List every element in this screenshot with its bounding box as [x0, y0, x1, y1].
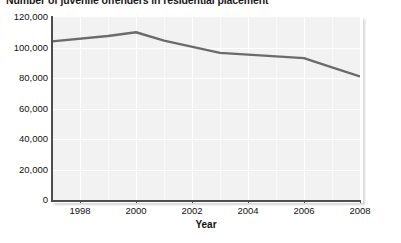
- y-axis-tick-label: 100,000: [2, 43, 48, 53]
- y-axis-tick-label: 20,000: [2, 165, 48, 175]
- y-axis-tick-label: 40,000: [2, 134, 48, 144]
- x-axis-tick-mark: [304, 200, 305, 203]
- y-axis-tick-label: 80,000: [2, 73, 48, 83]
- y-axis-tick-label: 60,000: [2, 104, 48, 114]
- x-axis-tick-mark: [360, 200, 361, 203]
- chart-figure: Number of juvenile offenders in resident…: [0, 0, 401, 243]
- x-axis-tick-label: 2008: [340, 205, 380, 216]
- x-axis-tick-mark: [192, 200, 193, 203]
- x-axis-title: Year: [52, 219, 360, 230]
- plot-area: [52, 17, 360, 200]
- x-axis-tick-label: 1998: [60, 205, 100, 216]
- x-axis-tick-label: 2004: [228, 205, 268, 216]
- y-axis-tick-label: 120,000: [2, 12, 48, 22]
- x-axis-tick-mark: [136, 200, 137, 203]
- x-axis-line: [51, 200, 361, 202]
- x-axis-tick-label: 2000: [116, 205, 156, 216]
- x-axis-tick-mark: [80, 200, 81, 203]
- x-axis-tick-mark: [248, 200, 249, 203]
- x-axis-tick-label: 2002: [172, 205, 212, 216]
- data-series-line: [52, 17, 360, 200]
- bottom-caption: [6, 236, 396, 243]
- y-axis-line: [51, 16, 53, 201]
- y-axis-tick-labels: 120,000100,00080,00060,00040,00020,0000: [0, 0, 48, 243]
- x-axis-tick-label: 2006: [284, 205, 324, 216]
- y-axis-tick-label: 0: [2, 195, 48, 205]
